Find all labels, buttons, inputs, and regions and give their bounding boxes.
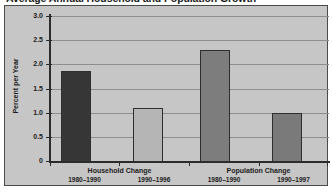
bar-household-1990-1996 [133, 108, 163, 162]
x-period-label-population-1: 1990–1997 [259, 176, 328, 184]
x-tick-mark-end [327, 161, 328, 166]
y-tick-label-2-0: 2.0 [17, 60, 43, 67]
x-period-label-population-0: 1980–1990 [189, 176, 259, 184]
x-tick-mark-2 [189, 161, 190, 166]
chart-title: Average Annual Household and Population … [6, 0, 326, 4]
x-period-label-household-0: 1980–1990 [50, 176, 119, 184]
y-tick-label-2-5: 2.5 [17, 36, 43, 43]
x-tick-mark-3 [259, 161, 260, 166]
bar-population-1980-1990 [200, 50, 230, 162]
chart-figure: Average Annual Household and Population … [0, 0, 332, 193]
y-tick-label-1-0: 1.0 [17, 109, 43, 116]
y-tick-label-3-0: 3.0 [17, 12, 43, 19]
y-tick-label-0-5: 0.5 [17, 133, 43, 140]
bar-population-1990-1997 [272, 113, 302, 162]
y-tick-label-0: 0 [17, 157, 43, 164]
plot-area [50, 16, 329, 162]
x-group-label-population: Population Change [189, 167, 328, 175]
y-axis-title: Percent per Year [12, 56, 20, 116]
x-period-label-household-1: 1990–1996 [119, 176, 189, 184]
x-tick-mark-start [50, 161, 51, 166]
y-tick-label-1-5: 1.5 [17, 85, 43, 92]
x-group-label-household: Household Change [50, 167, 189, 175]
x-tick-mark-1 [119, 161, 120, 166]
plot-frame: 3.0 2.5 2.0 1.5 1.0 0.5 0 Percent per Ye… [4, 5, 328, 186]
bar-household-1980-1990 [61, 71, 91, 162]
